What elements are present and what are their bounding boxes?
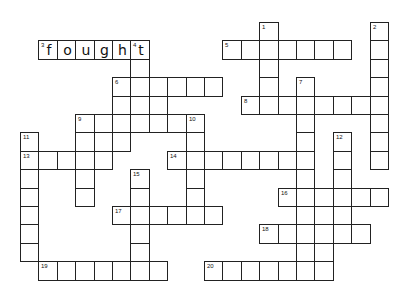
- grid-cell[interactable]: [259, 96, 279, 115]
- grid-cell[interactable]: [112, 132, 131, 152]
- grid-cell[interactable]: [130, 77, 150, 97]
- grid-cell[interactable]: [259, 59, 279, 78]
- grid-cell[interactable]: [75, 151, 95, 170]
- grid-cell[interactable]: [278, 151, 297, 170]
- grid-cell[interactable]: [278, 224, 297, 244]
- grid-cell[interactable]: 12: [333, 132, 352, 152]
- grid-cell[interactable]: [204, 77, 223, 97]
- grid-cell[interactable]: [333, 151, 352, 170]
- grid-cell[interactable]: [278, 261, 297, 281]
- grid-cell[interactable]: [278, 96, 297, 115]
- grid-cell[interactable]: [186, 169, 205, 189]
- grid-cell[interactable]: [20, 206, 39, 225]
- grid-cell[interactable]: [38, 151, 58, 170]
- grid-cell[interactable]: [130, 206, 150, 225]
- grid-cell[interactable]: [278, 40, 297, 60]
- grid-cell[interactable]: [370, 77, 389, 97]
- grid-cell[interactable]: 8: [241, 96, 260, 115]
- grid-cell[interactable]: [370, 96, 389, 115]
- grid-cell[interactable]: [112, 261, 131, 281]
- grid-cell[interactable]: [167, 114, 187, 133]
- grid-cell[interactable]: [94, 114, 113, 133]
- grid-cell[interactable]: [259, 261, 279, 281]
- grid-cell[interactable]: [370, 40, 389, 60]
- grid-cell[interactable]: 16: [278, 188, 297, 207]
- grid-cell[interactable]: [57, 151, 76, 170]
- grid-cell[interactable]: [314, 224, 334, 244]
- grid-cell[interactable]: [351, 224, 371, 244]
- grid-cell[interactable]: 14: [167, 151, 187, 170]
- grid-cell[interactable]: [222, 261, 242, 281]
- grid-cell[interactable]: 19: [38, 261, 58, 281]
- grid-cell[interactable]: 15: [130, 169, 150, 189]
- grid-cell[interactable]: 20: [204, 261, 223, 281]
- grid-cell[interactable]: [130, 114, 150, 133]
- grid-cell[interactable]: [259, 40, 279, 60]
- grid-cell[interactable]: [20, 188, 39, 207]
- grid-cell[interactable]: [149, 77, 168, 97]
- grid-cell[interactable]: [112, 114, 131, 133]
- grid-cell[interactable]: 13: [20, 151, 39, 170]
- grid-cell[interactable]: [296, 243, 315, 262]
- grid-cell[interactable]: [296, 188, 315, 207]
- grid-cell[interactable]: [20, 169, 39, 189]
- grid-cell[interactable]: [186, 206, 205, 225]
- grid-cell[interactable]: [296, 261, 315, 281]
- grid-cell[interactable]: [296, 132, 315, 152]
- grid-cell[interactable]: [370, 188, 389, 207]
- grid-cell[interactable]: [186, 77, 205, 97]
- grid-cell[interactable]: [296, 40, 315, 60]
- grid-cell[interactable]: u: [75, 40, 95, 60]
- grid-cell[interactable]: [130, 224, 150, 244]
- grid-cell[interactable]: [314, 96, 334, 115]
- grid-cell[interactable]: 9: [75, 114, 95, 133]
- grid-cell[interactable]: 2: [370, 22, 389, 41]
- grid-cell[interactable]: [20, 243, 39, 262]
- grid-cell[interactable]: [149, 261, 168, 281]
- grid-cell[interactable]: [351, 188, 371, 207]
- grid-cell[interactable]: 11: [20, 132, 39, 152]
- grid-cell[interactable]: [333, 224, 352, 244]
- grid-cell[interactable]: 4t: [130, 40, 150, 60]
- grid-cell[interactable]: [370, 114, 389, 133]
- grid-cell[interactable]: [75, 261, 95, 281]
- grid-cell[interactable]: [57, 261, 76, 281]
- grid-cell[interactable]: [314, 243, 334, 262]
- grid-cell[interactable]: [94, 132, 113, 152]
- grid-cell[interactable]: [204, 206, 223, 225]
- grid-cell[interactable]: [94, 151, 113, 170]
- grid-cell[interactable]: [186, 188, 205, 207]
- grid-cell[interactable]: [75, 188, 95, 207]
- grid-cell[interactable]: [94, 261, 113, 281]
- grid-cell[interactable]: [296, 96, 315, 115]
- grid-cell[interactable]: [186, 132, 205, 152]
- grid-cell[interactable]: [370, 132, 389, 152]
- grid-cell[interactable]: [130, 188, 150, 207]
- grid-cell[interactable]: [130, 243, 150, 262]
- grid-cell[interactable]: [314, 188, 334, 207]
- grid-cell[interactable]: h: [112, 40, 131, 60]
- grid-cell[interactable]: [186, 151, 205, 170]
- grid-cell[interactable]: 17: [112, 206, 131, 225]
- grid-cell[interactable]: [314, 40, 334, 60]
- grid-cell[interactable]: [149, 114, 168, 133]
- grid-cell[interactable]: [296, 151, 315, 170]
- grid-cell[interactable]: 7: [296, 77, 315, 97]
- grid-cell[interactable]: 18: [259, 224, 279, 244]
- grid-cell[interactable]: [370, 59, 389, 78]
- grid-cell[interactable]: [112, 96, 131, 115]
- grid-cell[interactable]: [167, 77, 187, 97]
- grid-cell[interactable]: 6: [112, 77, 131, 97]
- grid-cell[interactable]: [167, 206, 187, 225]
- grid-cell[interactable]: [130, 261, 150, 281]
- grid-cell[interactable]: 1: [259, 22, 279, 41]
- grid-cell[interactable]: [130, 59, 150, 78]
- grid-cell[interactable]: [370, 151, 389, 170]
- grid-cell[interactable]: [314, 206, 334, 225]
- grid-cell[interactable]: [333, 96, 352, 115]
- grid-cell[interactable]: [241, 261, 260, 281]
- grid-cell[interactable]: [130, 96, 150, 115]
- grid-cell[interactable]: [241, 40, 260, 60]
- grid-cell[interactable]: [222, 151, 242, 170]
- grid-cell[interactable]: [314, 261, 334, 281]
